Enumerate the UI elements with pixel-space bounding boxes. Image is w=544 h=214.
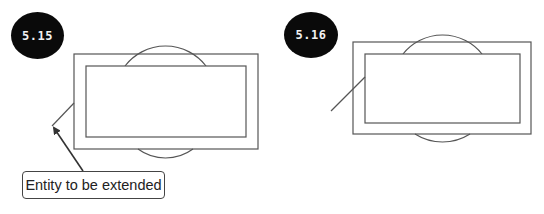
figure-number: 5.15 bbox=[22, 29, 53, 43]
inner-rectangle bbox=[86, 66, 246, 137]
inner-rectangle bbox=[365, 54, 520, 123]
top-arc bbox=[125, 46, 206, 66]
figure-number: 5.16 bbox=[296, 28, 327, 42]
figure-badge-5-15: 5.15 bbox=[11, 12, 64, 59]
bottom-arc bbox=[138, 149, 193, 158]
figure-badge-5-16: 5.16 bbox=[284, 12, 338, 58]
top-arc bbox=[403, 35, 482, 54]
entity-line bbox=[52, 103, 74, 126]
callout-text: Entity to be extended bbox=[25, 177, 161, 193]
extended-entity-line bbox=[331, 77, 365, 111]
figure-5-16 bbox=[331, 35, 531, 142]
callout-label: Entity to be extended bbox=[22, 171, 165, 199]
diagram-canvas: 5.15 5.16 Entity to be extended bbox=[0, 0, 544, 214]
bottom-arc bbox=[415, 134, 470, 142]
figure-5-15 bbox=[52, 46, 258, 171]
